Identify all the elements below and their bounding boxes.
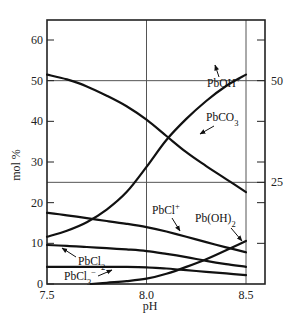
x-tick-label: 8.5: [239, 288, 254, 302]
label-pboh: PbOH+: [207, 74, 241, 89]
right-y-axis: 2550: [257, 40, 283, 243]
y-tick-label: 50: [31, 74, 43, 88]
label-pbcl: PbCl+: [152, 201, 180, 216]
x-axis-title: pH: [143, 299, 158, 313]
arrow-pboh: [215, 65, 219, 77]
arrow-pbcl2: [62, 248, 76, 257]
y-tick-label: 40: [31, 114, 43, 128]
y-tick-label: 20: [31, 196, 43, 210]
speciation-chart: 0102030405060 2550 7.58.08.5 PbCO3PbOH+P…: [0, 0, 296, 333]
arrow-pbco3: [200, 126, 214, 134]
y-axis-title: mol %: [9, 149, 23, 181]
right-y-tick-label: 50: [271, 74, 283, 88]
label-pbco3: PbCO3: [206, 111, 238, 128]
x-tick-label: 7.5: [40, 288, 55, 302]
arrow-pbcl: [172, 218, 180, 231]
right-y-tick-label: 25: [271, 175, 283, 189]
left-y-axis: 0102030405060: [31, 33, 54, 291]
y-tick-label: 10: [31, 236, 43, 250]
arrow-pb-oh-2: [231, 228, 242, 241]
series-labels: PbCO3PbOH+PbCl+Pb(OH)2PbCl2PbCl3−: [62, 65, 242, 287]
y-tick-label: 30: [31, 155, 43, 169]
y-tick-label: 60: [31, 33, 43, 47]
label-pb-oh-2: Pb(OH)2: [195, 212, 236, 229]
